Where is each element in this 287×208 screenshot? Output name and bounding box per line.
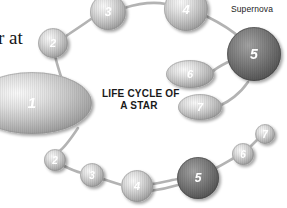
star-body-texture	[0, 72, 92, 134]
star-stage-lower-5: 5	[177, 157, 219, 199]
stage-number-label: 6	[240, 149, 246, 160]
stage-number-label: 7	[262, 129, 268, 140]
page-title-line-2: A STAR	[120, 100, 157, 111]
connector-line	[212, 62, 228, 72]
page-title: LIFE CYCLE OFA STAR	[102, 88, 176, 111]
star-stage-lower-2: 2	[44, 149, 66, 171]
star-stage-upper-7: 7	[178, 94, 222, 120]
stage-number-label: 5	[195, 171, 202, 185]
connector-line	[216, 158, 234, 168]
stage-number-label: 3	[105, 5, 112, 19]
connector-line	[124, 3, 166, 8]
star-life-cycle-diagram: 1234567234567 r at LIFE CYCLE OFA STAR S…	[0, 0, 287, 208]
connector-line	[58, 128, 78, 152]
stage-number-label: 4	[181, 2, 190, 17]
connector-line	[206, 16, 240, 38]
stage-number-label: 1	[28, 94, 36, 111]
connector-line	[152, 179, 178, 184]
star-stage-upper-2: 2	[38, 28, 68, 58]
stage-number-label: 2	[49, 37, 56, 49]
star-stage-upper-5: 5	[227, 27, 281, 81]
star-stage-upper-6: 6	[166, 60, 214, 88]
stage-number-label: 5	[250, 46, 258, 62]
stage-number-label: 6	[187, 68, 194, 80]
supernova-label: Supernova	[231, 4, 273, 14]
stage-number-label: 2	[51, 155, 58, 166]
star-stage-upper-3: 3	[90, 0, 126, 30]
page-text-fragment: r at	[0, 27, 23, 49]
connector-line	[64, 166, 82, 173]
star-stage-upper-4: 4	[164, 0, 208, 31]
star-stage-lower-4: 4	[121, 170, 153, 202]
connector-line	[66, 17, 94, 36]
connector-line	[103, 179, 122, 185]
star-stage-upper-1: 1	[0, 72, 92, 134]
stage-number-label: 3	[89, 170, 95, 181]
connector-line	[150, 185, 178, 191]
star-stage-lower-3: 3	[80, 163, 104, 187]
stage-number-label: 7	[197, 101, 204, 113]
star-stage-lower-6: 6	[232, 143, 254, 165]
star-stage-lower-7: 7	[255, 124, 275, 144]
page-title-line-1: LIFE CYCLE OF	[102, 88, 180, 99]
connector-line	[221, 82, 248, 105]
stage-number-label: 4	[133, 180, 140, 192]
